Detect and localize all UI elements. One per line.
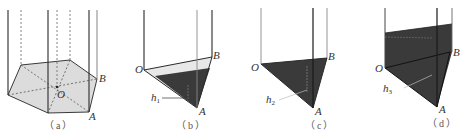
label-d-B: B — [453, 47, 460, 58]
label-c-B: B — [328, 51, 335, 62]
panel-d-tilted-h3 — [385, 8, 452, 107]
panel-a-prism — [8, 10, 97, 113]
label-d-h3: h3 — [383, 83, 392, 96]
label-a-O: O — [57, 89, 65, 100]
label-a-A: A — [89, 111, 96, 122]
label-a-B: B — [99, 73, 106, 84]
label-c-h2: h2 — [266, 94, 275, 107]
label-c-A: A — [315, 106, 322, 117]
caption-b: （b） — [176, 121, 207, 131]
diagram-canvas — [0, 0, 463, 137]
caption-a: （a） — [44, 121, 74, 131]
caption-d: （d） — [427, 119, 458, 129]
pentagon-base — [8, 60, 97, 113]
label-b-B: B — [213, 50, 220, 61]
label-b-A: A — [199, 106, 206, 117]
prism-water-diagram: O B A （a） O B A h1 （b） O B A h2 （c） O B … — [0, 0, 463, 137]
label-b-h1: h1 — [151, 92, 160, 105]
label-d-O: O — [375, 63, 383, 74]
label-d-A: A — [439, 104, 446, 115]
label-c-O: O — [251, 62, 259, 73]
caption-c: （c） — [305, 121, 335, 131]
label-b-O: O — [135, 64, 143, 75]
